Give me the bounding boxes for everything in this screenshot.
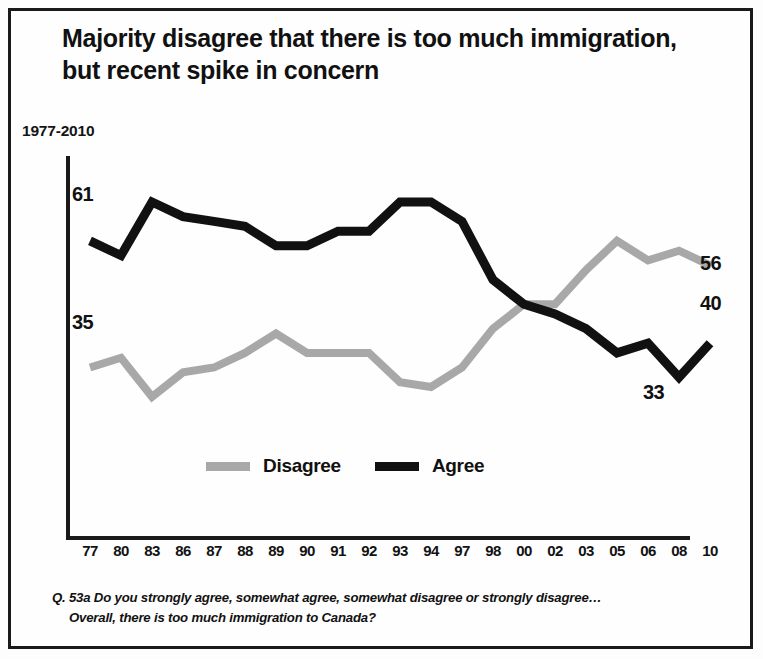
endpoint-label-agree-start: 61	[72, 183, 93, 206]
chart-figure: Majority disagree that there is too much…	[0, 0, 763, 659]
chart-footnote: Q. 53a Do you strongly agree, somewhat a…	[52, 588, 712, 628]
x-tick-label-05: 05	[602, 542, 632, 559]
series-line-agree	[90, 202, 710, 377]
x-tick-label-83: 83	[137, 542, 167, 559]
legend-swatch-agree	[375, 462, 419, 471]
legend-entry-agree[interactable]: Agree	[375, 455, 484, 477]
endpoint-label-disagree-start: 35	[72, 311, 93, 334]
x-tick-label-92: 92	[354, 542, 384, 559]
x-tick-label-00: 00	[509, 542, 539, 559]
x-tick-label-10: 10	[695, 542, 725, 559]
legend-label-agree: Agree	[432, 455, 484, 477]
x-tick-label-02: 02	[540, 542, 570, 559]
series-line-disagree	[90, 241, 710, 397]
x-tick-label-89: 89	[261, 542, 291, 559]
legend-entry-disagree[interactable]: Disagree	[206, 455, 341, 477]
x-tick-label-80: 80	[106, 542, 136, 559]
chart-axes	[68, 158, 688, 538]
x-tick-label-97: 97	[447, 542, 477, 559]
x-tick-label-98: 98	[478, 542, 508, 559]
footnote-line-2: Overall, there is too much immigration t…	[52, 608, 712, 628]
x-tick-label-90: 90	[292, 542, 322, 559]
endpoint-label-agree-low: 33	[643, 381, 664, 404]
x-tick-label-88: 88	[230, 542, 260, 559]
x-tick-label-08: 08	[664, 542, 694, 559]
endpoint-label-agree-end: 40	[700, 292, 721, 315]
endpoint-label-disagree-end: 56	[700, 252, 721, 275]
chart-plot-area	[0, 0, 763, 659]
x-tick-label-94: 94	[416, 542, 446, 559]
legend-swatch-disagree	[206, 462, 250, 471]
x-tick-label-93: 93	[385, 542, 415, 559]
x-tick-label-86: 86	[168, 542, 198, 559]
chart-legend: Disagree Agree	[206, 455, 484, 477]
footnote-line-1: Q. 53a Do you strongly agree, somewhat a…	[52, 588, 712, 608]
x-tick-label-03: 03	[571, 542, 601, 559]
x-tick-label-77: 77	[75, 542, 105, 559]
legend-label-disagree: Disagree	[263, 455, 341, 477]
x-tick-label-91: 91	[323, 542, 353, 559]
x-tick-label-87: 87	[199, 542, 229, 559]
x-tick-label-06: 06	[633, 542, 663, 559]
